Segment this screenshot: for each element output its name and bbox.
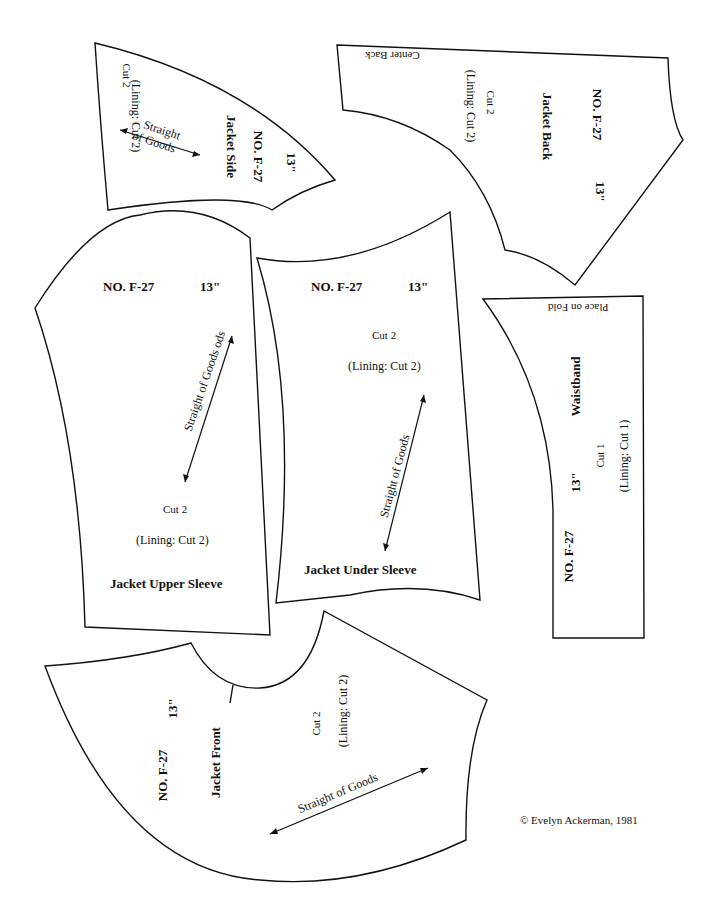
under-sleeve-pattern-number: NO. F-27 <box>311 280 362 293</box>
under-sleeve-name: Jacket Under Sleeve <box>304 563 416 576</box>
upper-sleeve-cut: Cut 2 <box>163 504 187 515</box>
upper-sleeve-size: 13" <box>200 280 220 293</box>
jacket-front-outline <box>45 611 487 882</box>
jacket-back-outline <box>337 45 683 285</box>
jacket-back-name: Jacket Back <box>541 93 554 161</box>
under-sleeve-outline <box>257 212 480 603</box>
jacket-front-pattern-number: NO. F-27 <box>156 750 169 801</box>
under-sleeve-lining: (Lining: Cut 2) <box>348 360 421 372</box>
upper-sleeve-name: Jacket Upper Sleeve <box>110 577 222 590</box>
jacket-front-size: 13" <box>166 698 179 718</box>
waistband-place-on-fold: Place on Fold <box>548 302 609 313</box>
jacket-front-name: Jacket Front <box>209 727 222 798</box>
jacket-back-size: 13" <box>594 181 607 201</box>
pattern-outlines <box>0 0 716 910</box>
jacket-front-grain-arrow <box>270 768 428 834</box>
under-sleeve-cut: Cut 2 <box>372 330 396 341</box>
jacket-back-lining: (Lining: Cut 2) <box>465 70 477 143</box>
waistband-cut: Cut 1 <box>595 443 606 467</box>
waistband-lining: (Lining: Cut 1) <box>618 420 630 493</box>
copyright-notice: © Evelyn Ackerman, 1981 <box>520 815 638 826</box>
jacket-front-lining: (Lining: Cut 2) <box>337 675 349 748</box>
upper-sleeve-outline <box>35 211 270 635</box>
jacket-side-cut: Cut 2 <box>121 63 132 87</box>
jacket-side-name: Jacket Side <box>225 115 238 178</box>
under-sleeve-size: 13" <box>408 280 428 293</box>
waistband-name: Waistband <box>569 357 582 417</box>
jacket-side-pattern-number: NO. F-27 <box>252 131 265 182</box>
waistband-size: 13" <box>569 472 582 492</box>
upper-sleeve-lining: (Lining: Cut 2) <box>136 534 209 546</box>
jacket-back-cut: Cut 2 <box>485 90 496 114</box>
jacket-side-size: 13" <box>285 152 298 172</box>
jacket-back-center-back: Center Back <box>365 50 420 61</box>
waistband-pattern-number: NO. F-27 <box>562 531 575 582</box>
jacket-front-cut: Cut 2 <box>311 711 322 735</box>
upper-sleeve-pattern-number: NO. F-27 <box>103 280 154 293</box>
jacket-back-pattern-number: NO. F-27 <box>591 89 604 140</box>
